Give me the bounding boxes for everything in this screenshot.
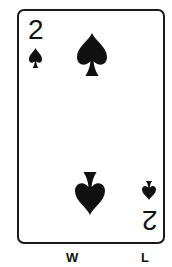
label-l: L <box>141 251 149 265</box>
spade-icon <box>75 172 105 215</box>
card-rank-bottom: 2 <box>142 209 158 231</box>
spade-icon <box>142 181 156 200</box>
spade-icon <box>29 48 42 68</box>
spade-icon <box>77 33 107 76</box>
playing-card-two-of-spades[interactable]: 2 2 <box>17 9 165 244</box>
label-w: W <box>66 251 78 265</box>
card-rank-top: 2 <box>28 19 44 41</box>
